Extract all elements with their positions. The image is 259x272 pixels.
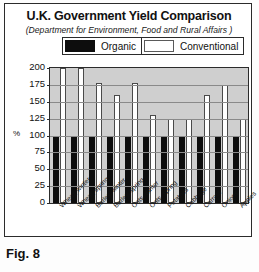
gridline	[50, 169, 248, 170]
y-tick-mark	[47, 169, 50, 170]
y-tick-label: 50	[19, 164, 45, 174]
y-tick-mark	[47, 152, 50, 153]
y-tick-mark	[47, 85, 50, 86]
y-tick-label: 25	[19, 180, 45, 190]
plot-wrapper: % 2001751501251007550250 Wheat, winterWh…	[5, 4, 253, 238]
figure-caption: Fig. 8	[6, 246, 40, 261]
gridline	[50, 85, 248, 86]
y-tick-mark	[47, 186, 50, 187]
x-axis-labels: Wheat, winterWheat, springBarley, winter…	[49, 204, 247, 244]
gridline	[50, 102, 248, 103]
gridline	[50, 152, 248, 153]
y-tick-mark	[47, 136, 50, 137]
figure-root: U.K. Government Yield Comparison (Depart…	[0, 0, 259, 272]
y-tick-label: 0	[19, 197, 45, 207]
y-tick-label: 150	[19, 96, 45, 106]
y-tick-label: 100	[19, 130, 45, 140]
y-axis-ticks: 2001751501251007550250	[19, 4, 45, 238]
gridline	[50, 136, 248, 137]
chart-frame: U.K. Government Yield Comparison (Depart…	[4, 3, 252, 237]
y-tick-label: 125	[19, 113, 45, 123]
y-tick-mark	[47, 102, 50, 103]
y-tick-mark	[47, 68, 50, 69]
y-tick-label: 200	[19, 62, 45, 72]
bar-conventional	[240, 119, 246, 203]
y-tick-label: 175	[19, 79, 45, 89]
y-tick-label: 75	[19, 147, 45, 157]
y-tick-mark	[47, 119, 50, 120]
gridline	[50, 119, 248, 120]
